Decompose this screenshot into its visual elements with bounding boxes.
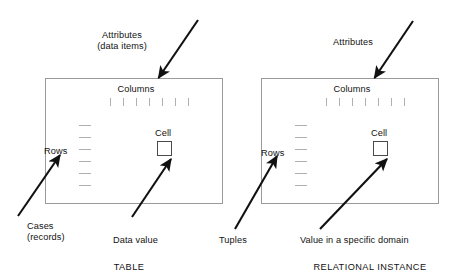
relational-cell-box bbox=[374, 142, 388, 156]
rows-label-right: Rows bbox=[261, 148, 284, 159]
attributes-label-right: Attributes bbox=[322, 37, 384, 48]
columns-label-right: Columns bbox=[322, 84, 382, 95]
data-value-arrow bbox=[132, 159, 171, 217]
cell-label-right: Cell bbox=[371, 128, 387, 139]
diagram-figure: Attributes (data items) Attributes Colum… bbox=[0, 0, 453, 279]
domain-value-arrow bbox=[320, 159, 387, 229]
table-column-ticks bbox=[111, 98, 189, 106]
data-value-label: Data value bbox=[113, 235, 158, 246]
rows-label-left: Rows bbox=[44, 146, 67, 157]
cell-label-left: Cell bbox=[155, 128, 171, 139]
caption-table: TABLE bbox=[84, 262, 174, 272]
relational-instance-panel-graphics bbox=[235, 21, 439, 229]
relational-row-dashes bbox=[295, 126, 307, 186]
table-cell-box bbox=[158, 142, 172, 156]
columns-label-left: Columns bbox=[106, 84, 166, 95]
attributes-label-left: Attributes (data items) bbox=[84, 30, 160, 51]
table-row-dashes bbox=[79, 126, 91, 186]
table-outer-box bbox=[46, 79, 223, 204]
caption-relational-instance: RELATIONAL INSTANCE bbox=[300, 262, 440, 272]
attributes-arrow-right bbox=[375, 21, 414, 78]
domain-value-label: Value in a specific domain bbox=[300, 235, 409, 246]
attributes-arrow-left bbox=[159, 20, 199, 78]
relational-outer-box bbox=[262, 79, 439, 204]
cases-arrow bbox=[18, 155, 60, 216]
cases-records-label: Cases (records) bbox=[27, 221, 87, 242]
tuples-arrow bbox=[235, 156, 277, 229]
tuples-label: Tuples bbox=[219, 235, 247, 246]
relational-column-ticks bbox=[327, 98, 405, 106]
